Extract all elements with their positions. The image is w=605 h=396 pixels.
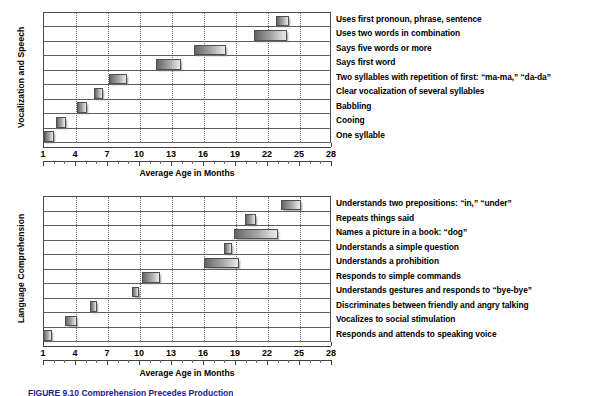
milestone-label: Two syllables with repetition of first: … xyxy=(336,72,551,82)
x-tick-minor xyxy=(278,360,279,363)
figure-caption: FIGURE 9.10 Comprehension Precedes Produ… xyxy=(28,388,233,396)
x-tick-label: 25 xyxy=(287,348,311,358)
x-tick-minor xyxy=(96,360,97,363)
axis-endcap xyxy=(43,342,44,346)
row-baseline xyxy=(43,41,331,42)
range-bar xyxy=(56,117,67,128)
range-bar xyxy=(234,229,278,240)
range-bar xyxy=(94,88,103,99)
x-tick-minor xyxy=(86,161,87,164)
x-tick-label: 22 xyxy=(255,149,279,159)
x-tick-minor xyxy=(96,161,97,164)
range-bar xyxy=(65,316,77,327)
row-baseline xyxy=(43,225,331,226)
milestone-label: Vocalizes to social stimulation xyxy=(336,314,455,324)
x-tick-major xyxy=(43,360,44,365)
x-tick-label: 19 xyxy=(223,149,247,159)
x-tick-label: 10 xyxy=(127,149,151,159)
milestone-label: Repeats things said xyxy=(336,213,414,223)
row-baseline xyxy=(43,327,331,328)
x-tick-label: 13 xyxy=(159,348,183,358)
x-tick-minor xyxy=(214,360,215,363)
range-bar xyxy=(77,102,87,113)
x-tick-minor xyxy=(128,360,129,363)
row-baseline xyxy=(43,211,331,212)
range-bar xyxy=(44,131,54,142)
x-tick-label: 7 xyxy=(95,348,119,358)
x-tick-minor xyxy=(160,360,161,363)
x-tick-minor xyxy=(214,161,215,164)
milestone-label: Clear vocalization of several syllables xyxy=(336,86,484,96)
gridline-vertical xyxy=(172,13,173,142)
axis-endcap xyxy=(331,143,332,147)
x-tick-minor xyxy=(246,360,247,363)
milestone-label: Discriminates between friendly and angry… xyxy=(336,300,529,310)
x-tick-label: 1 xyxy=(31,149,55,159)
x-tick-label: 10 xyxy=(127,348,151,358)
gridline-vertical xyxy=(204,13,205,142)
x-tick-major xyxy=(235,360,236,365)
range-bar xyxy=(281,200,301,211)
row-baseline xyxy=(43,341,331,342)
range-bar xyxy=(109,74,127,85)
x-tick-minor xyxy=(64,161,65,164)
gridline-vertical xyxy=(140,13,141,142)
row-baseline xyxy=(43,99,331,100)
x-tick-minor xyxy=(182,161,183,164)
x-tick-minor xyxy=(310,161,311,164)
x-tick-minor xyxy=(118,161,119,164)
x-axis-title-top: Average Age in Months xyxy=(43,168,331,178)
gridline-vertical xyxy=(300,13,301,142)
milestone-label: Understands a prohibition xyxy=(336,256,439,266)
row-baseline xyxy=(43,55,331,56)
x-tick-minor xyxy=(288,360,289,363)
x-tick-major xyxy=(171,161,172,166)
row-baseline xyxy=(43,26,331,27)
row-baseline xyxy=(43,128,331,129)
milestone-label: Understands gestures and responds to “by… xyxy=(336,285,532,295)
milestone-label: Says five words or more xyxy=(336,43,432,53)
milestone-label: Uses two words in combination xyxy=(336,28,460,38)
range-bar xyxy=(90,301,97,312)
y-axis-label-vocalization: Vocalization and Speech xyxy=(16,12,26,142)
milestone-label: Responds to simple commands xyxy=(336,271,461,281)
range-bar xyxy=(224,243,231,254)
row-baseline xyxy=(43,298,331,299)
x-tick-minor xyxy=(150,360,151,363)
x-tick-minor xyxy=(192,161,193,164)
x-tick-major xyxy=(267,161,268,166)
x-tick-major xyxy=(331,161,332,166)
plot-area-vocalization xyxy=(43,12,331,142)
x-tick-minor xyxy=(246,161,247,164)
x-tick-major xyxy=(331,360,332,365)
x-tick-minor xyxy=(160,161,161,164)
milestone-label: One syllable xyxy=(336,130,385,140)
row-baseline xyxy=(43,113,331,114)
y-axis-label-comprehension: Language Comprehension xyxy=(16,196,26,341)
x-tick-minor xyxy=(278,161,279,164)
milestone-label: Responds and attends to speaking voice xyxy=(336,329,497,339)
range-bar xyxy=(204,258,239,269)
x-tick-label: 16 xyxy=(191,149,215,159)
x-tick-minor xyxy=(118,360,119,363)
range-bar xyxy=(142,272,160,283)
x-tick-minor xyxy=(192,360,193,363)
x-tick-major xyxy=(203,161,204,166)
x-tick-minor xyxy=(256,161,257,164)
x-axis-line-bottom xyxy=(43,346,331,347)
axis-endcap xyxy=(43,143,44,147)
row-baseline xyxy=(43,312,331,313)
x-tick-major xyxy=(203,360,204,365)
milestone-label: Babbling xyxy=(336,101,371,111)
x-tick-minor xyxy=(224,161,225,164)
x-tick-minor xyxy=(86,360,87,363)
x-tick-minor xyxy=(224,360,225,363)
x-tick-label: 4 xyxy=(63,348,87,358)
milestone-label: Understands two prepositions: “in,” “und… xyxy=(336,198,512,208)
x-tick-label: 4 xyxy=(63,149,87,159)
row-baseline xyxy=(43,283,331,284)
range-bar xyxy=(276,16,290,27)
milestone-label: Understands a simple question xyxy=(336,242,459,252)
row-baseline xyxy=(43,254,331,255)
x-axis-title-bottom: Average Age in Months xyxy=(43,368,331,378)
